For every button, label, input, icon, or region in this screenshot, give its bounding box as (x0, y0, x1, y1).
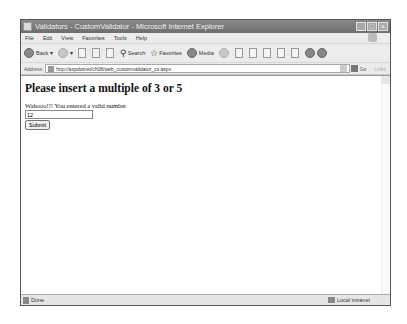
edit-icon[interactable] (263, 48, 271, 58)
go-label: Go (360, 66, 367, 72)
media-icon (187, 48, 197, 58)
forward-dropdown-icon[interactable]: ▾ (70, 50, 73, 56)
favorites-label: Favorites (159, 50, 182, 56)
address-label: Address (24, 66, 42, 72)
vertical-scrollbar[interactable] (381, 76, 390, 294)
search-label: Search (128, 50, 145, 56)
close-button[interactable]: × (378, 22, 388, 31)
number-input[interactable] (25, 110, 93, 119)
browser-window: Validators - CustomValidator - Microsoft… (20, 19, 391, 306)
title-bar: Validators - CustomValidator - Microsoft… (21, 20, 390, 33)
search-button[interactable]: ⚲ Search (120, 48, 145, 58)
forward-arrow-icon (58, 48, 68, 58)
windows-logo-icon (368, 33, 377, 42)
menu-edit[interactable]: Edit (43, 35, 52, 41)
submit-button[interactable]: Submit (25, 120, 50, 130)
research-icon[interactable] (291, 48, 299, 58)
menu-tools[interactable]: Tools (114, 35, 127, 41)
window-title: Validators - CustomValidator - Microsoft… (35, 22, 356, 31)
stop-icon[interactable] (78, 48, 86, 58)
page-icon (48, 66, 54, 72)
intranet-zone-icon (328, 297, 335, 303)
toolbar: Back ▾ ▾ ⚲ Search ☆ Favorites Media (21, 44, 390, 63)
status-bar: Done Local intranet (21, 294, 390, 305)
mail-icon[interactable] (235, 48, 243, 58)
media-label: Media (199, 50, 214, 56)
menu-view[interactable]: View (61, 35, 73, 41)
toolbar-extra-icon[interactable] (317, 48, 327, 58)
favorites-button[interactable]: ☆ Favorites (150, 48, 182, 58)
page-done-icon (23, 297, 29, 304)
maximize-button[interactable]: □ (367, 22, 377, 31)
security-zone: Local intranet (337, 297, 370, 303)
discuss-icon[interactable] (277, 48, 285, 58)
refresh-icon[interactable] (92, 48, 100, 58)
address-dropdown-icon[interactable] (340, 65, 347, 72)
menu-file[interactable]: File (25, 35, 34, 41)
menu-favorites[interactable]: Favorites (82, 35, 105, 41)
menu-bar: File Edit View Favorites Tools Help (21, 33, 390, 44)
page-content: Please insert a multiple of 3 or 5 Wahoo… (21, 75, 390, 294)
links-button[interactable]: Links (374, 66, 386, 72)
address-url: http://aspdotnet/ch08/web_customvalidato… (56, 66, 171, 72)
address-bar: Address http://aspdotnet/ch08/web_custom… (21, 63, 390, 75)
validation-message: Wahooo!!! You entered a valid number (25, 102, 378, 109)
history-icon[interactable] (219, 48, 229, 58)
back-arrow-icon (24, 48, 34, 58)
back-dropdown-icon[interactable]: ▾ (48, 50, 53, 56)
status-text: Done (31, 297, 44, 303)
back-label: Back (36, 50, 48, 56)
messenger-icon[interactable] (305, 48, 315, 58)
minimize-button[interactable]: _ (356, 22, 366, 31)
go-button[interactable]: Go (351, 65, 367, 72)
scroll-up-icon[interactable] (382, 76, 390, 84)
address-input[interactable]: http://aspdotnet/ch08/web_customvalidato… (45, 64, 349, 73)
go-arrow-icon (351, 65, 358, 72)
star-icon: ☆ (150, 48, 158, 58)
menu-help[interactable]: Help (136, 35, 147, 41)
ie-app-icon (23, 22, 32, 31)
page-heading: Please insert a multiple of 3 or 5 (25, 82, 378, 94)
print-icon[interactable] (249, 48, 257, 58)
home-icon[interactable] (106, 48, 114, 58)
media-button[interactable]: Media (187, 48, 214, 58)
search-icon: ⚲ (120, 48, 127, 58)
forward-button[interactable]: ▾ (58, 48, 73, 58)
back-button[interactable]: Back ▾ (24, 48, 53, 58)
